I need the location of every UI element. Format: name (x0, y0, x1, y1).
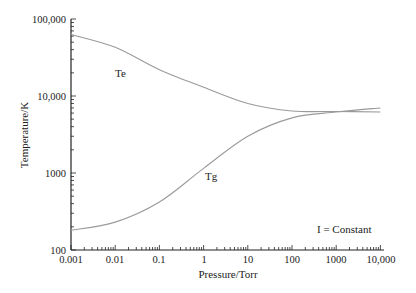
x-tick-label-100: 100 (284, 254, 300, 265)
x-tick-label-0.1: 0.1 (152, 254, 165, 265)
y-tick-label-100000: 100,000 (32, 14, 66, 25)
y-ticks (71, 19, 76, 250)
x-tick-label-0.001: 0.001 (59, 254, 83, 265)
x-tick-label-10000: 10,000 (367, 254, 396, 265)
te-label: Te (115, 67, 126, 79)
x-tick-label-1000: 1000 (326, 254, 347, 265)
condition-annotation: I = Constant (317, 223, 371, 235)
axes (71, 19, 384, 250)
x-tick-label-1: 1 (201, 254, 206, 265)
x-ticks (71, 245, 380, 250)
y-axis-title: Temperature/K (18, 102, 30, 168)
x-axis-title: Pressure/Torr (198, 268, 257, 280)
tg-label: Tg (205, 170, 218, 182)
x-tick-label-10: 10 (243, 254, 254, 265)
y-tick-label-10000: 10,000 (37, 91, 66, 102)
tg-curve (71, 108, 380, 230)
x-tick-label-0.01: 0.01 (106, 254, 124, 265)
chart: 100,000 10,000 1000 100 0.001 0.01 0.1 1… (0, 0, 416, 293)
y-tick-label-1000: 1000 (45, 168, 66, 179)
